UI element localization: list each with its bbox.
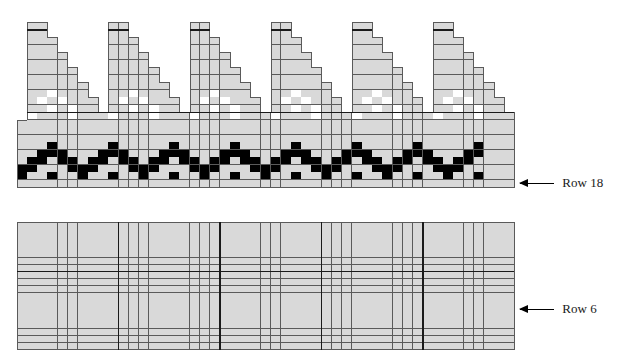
chart-cell <box>291 343 302 351</box>
chart-cell <box>494 343 505 351</box>
chart-cell <box>393 343 404 351</box>
chart-cell <box>311 180 322 188</box>
chart-cell <box>393 180 404 188</box>
chart-cell <box>372 180 383 188</box>
chart-cell <box>433 343 444 351</box>
chart-cell <box>17 180 28 188</box>
chart-cell <box>220 343 231 351</box>
chart-cell <box>58 343 69 351</box>
chart-cell <box>423 343 434 351</box>
chart-cell <box>240 180 251 188</box>
chart-cell <box>108 180 119 188</box>
divider <box>219 222 221 350</box>
chart-cell <box>504 180 515 188</box>
divider <box>118 222 120 350</box>
chart-cell <box>372 343 383 351</box>
chart-cell <box>443 180 454 188</box>
chart-cell <box>129 180 140 188</box>
chart-cell <box>271 343 282 351</box>
left-arrow-icon <box>520 309 554 310</box>
chart-cell <box>484 180 495 188</box>
chart-cell <box>484 343 495 351</box>
chart-cell <box>301 343 312 351</box>
chart-cell <box>190 180 201 188</box>
chart-cell <box>200 343 211 351</box>
chart-cell <box>47 180 58 188</box>
row-6-label: Row 6 <box>562 301 596 317</box>
chart-cell <box>230 343 241 351</box>
chart-cell <box>464 180 475 188</box>
chart-cell <box>98 343 109 351</box>
chart-cell <box>261 343 272 351</box>
divider <box>190 29 210 31</box>
divider <box>108 29 128 31</box>
divider <box>352 29 372 31</box>
divider <box>27 112 514 114</box>
chart-cell <box>149 343 160 351</box>
chart-cell <box>119 343 130 351</box>
chart-cell <box>169 180 180 188</box>
row-6-marker: Row 6 <box>520 301 596 317</box>
chart-cell <box>139 180 150 188</box>
chart-cell <box>27 343 38 351</box>
chart-cell <box>403 343 414 351</box>
chart-cell <box>382 180 393 188</box>
chart-cell <box>301 180 312 188</box>
chart-cell <box>322 343 333 351</box>
chart-cell <box>98 180 109 188</box>
chart-cell <box>423 180 434 188</box>
chart-cell <box>352 180 363 188</box>
chart-cell <box>332 180 343 188</box>
divider <box>422 222 424 350</box>
chart-cell <box>27 180 38 188</box>
chart-cell <box>433 180 444 188</box>
chart-cell <box>382 343 393 351</box>
chart-cell <box>504 343 515 351</box>
chart-cell <box>129 343 140 351</box>
chart-cell <box>159 180 170 188</box>
chart-cell <box>139 343 150 351</box>
divider <box>271 29 291 31</box>
chart-cell <box>342 180 353 188</box>
chart-cell <box>68 343 79 351</box>
chart-cell <box>159 343 170 351</box>
chart-cell <box>352 343 363 351</box>
chart-cell <box>474 180 485 188</box>
chart-cell <box>413 180 424 188</box>
chart-cell <box>149 180 160 188</box>
chart-cell <box>88 180 99 188</box>
chart-cell <box>240 343 251 351</box>
chart-cell <box>37 343 48 351</box>
chart-cell <box>261 180 272 188</box>
chart-cell <box>474 343 485 351</box>
chart-cell <box>494 180 505 188</box>
chart-cell <box>464 343 475 351</box>
chart-cell <box>78 180 89 188</box>
chart-cell <box>230 180 241 188</box>
chart-cell <box>453 343 464 351</box>
chart-cell <box>78 343 89 351</box>
chart-cell <box>190 343 201 351</box>
chart-cell <box>88 343 99 351</box>
chart-cell <box>403 180 414 188</box>
chart-cell <box>271 180 282 188</box>
chart-cell <box>200 180 211 188</box>
chart-cell <box>250 343 261 351</box>
chart-cell <box>342 343 353 351</box>
chart-cell <box>453 180 464 188</box>
chart-cell <box>179 343 190 351</box>
chart-cell <box>47 343 58 351</box>
chart-cell <box>68 180 79 188</box>
divider <box>433 29 453 31</box>
chart-cell <box>210 180 221 188</box>
left-arrow-icon <box>520 183 554 184</box>
chart-cell <box>37 180 48 188</box>
chart-cell <box>332 343 343 351</box>
row-18-marker: Row 18 <box>520 175 603 191</box>
divider <box>17 271 514 273</box>
divider <box>27 29 47 31</box>
chart-cell <box>220 180 231 188</box>
chart-cell <box>169 343 180 351</box>
chart-cell <box>58 180 69 188</box>
chart-cell <box>17 343 28 351</box>
